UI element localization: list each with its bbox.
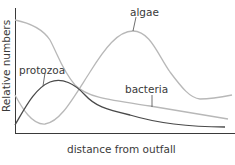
algae-leader — [133, 17, 136, 31]
algae-label: algae — [130, 6, 159, 18]
protozoa-label: protozoa — [19, 64, 65, 76]
chart-canvas: algae bacteria protozoa distance from ou… — [0, 0, 235, 165]
y-axis-label: Relative numbers — [0, 20, 12, 112]
algae-curve — [15, 31, 232, 124]
protozoa-curve — [15, 80, 225, 127]
bacteria-label: bacteria — [125, 83, 168, 95]
x-axis-label: distance from outfall — [67, 143, 176, 155]
